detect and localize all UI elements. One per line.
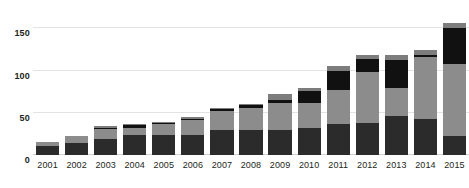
x-tick-label-2008: 2008 <box>236 160 265 170</box>
bar-segment-2009-segment-2-gray <box>268 103 291 130</box>
bar-2009 <box>268 94 291 155</box>
bar-segment-2013-segment-3-black <box>385 60 408 89</box>
bar-segment-2002-segment-2-gray <box>65 136 88 143</box>
bar-segment-2010-segment-1-dark <box>298 128 321 155</box>
bar-segment-2003-segment-2-gray <box>94 129 117 139</box>
bar-segment-2009-segment-1-dark <box>268 130 291 155</box>
bar-segment-2002-segment-1-dark <box>65 143 88 155</box>
bar-segment-2004-segment-1-dark <box>123 135 146 155</box>
bar-segment-2011-segment-3-black <box>327 71 350 90</box>
bar-segment-2004-segment-2-gray <box>123 128 146 135</box>
x-tick-label-2013: 2013 <box>382 160 411 170</box>
bar-2012 <box>356 55 379 155</box>
x-tick-label-2003: 2003 <box>91 160 120 170</box>
x-tick-label-2004: 2004 <box>120 160 149 170</box>
x-tick-label-2012: 2012 <box>353 160 382 170</box>
bar-2010 <box>298 88 321 155</box>
bar-segment-2008-segment-2-gray <box>239 108 262 130</box>
bar-segment-2006-segment-2-gray <box>181 120 204 134</box>
bar-2011 <box>327 66 350 155</box>
bar-segment-2006-segment-1-dark <box>181 135 204 155</box>
bar-2004 <box>123 124 146 155</box>
bar-segment-2010-segment-2-gray <box>298 103 321 128</box>
bar-segment-2007-segment-1-dark <box>210 130 233 155</box>
bar-segment-2015-segment-1-dark <box>443 136 466 155</box>
x-tick-label-2014: 2014 <box>411 160 440 170</box>
bar-2003 <box>94 126 117 155</box>
bar-segment-2005-segment-2-gray <box>152 124 175 135</box>
bar-segment-2013-segment-2-gray <box>385 88 408 116</box>
bar-segment-2011-segment-2-gray <box>327 90 350 124</box>
bar-segment-2001-segment-1-dark <box>36 146 59 155</box>
plot-area <box>33 20 469 155</box>
x-tick-label-2005: 2005 <box>149 160 178 170</box>
bar-2008 <box>239 104 262 155</box>
bar-2007 <box>210 108 233 155</box>
bar-segment-2012-segment-1-dark <box>356 123 379 155</box>
bar-segment-2013-segment-1-dark <box>385 116 408 155</box>
x-tick-label-2007: 2007 <box>207 160 236 170</box>
bar-segment-2008-segment-1-dark <box>239 130 262 155</box>
y-axis-labels: 050100150 <box>0 20 30 155</box>
bar-segment-2010-segment-3-black <box>298 91 321 103</box>
bar-2015 <box>443 23 466 155</box>
bar-2005 <box>152 122 175 155</box>
bar-2001 <box>36 142 59 155</box>
bar-segment-2014-segment-1-dark <box>414 119 437 155</box>
x-tick-label-2011: 2011 <box>324 160 353 170</box>
bar-2014 <box>414 50 437 155</box>
x-tick-label-2009: 2009 <box>266 160 295 170</box>
bar-2006 <box>181 117 204 155</box>
bar-segment-2015-segment-2-gray <box>443 64 466 137</box>
stacked-bar-chart: 050100150 200120022003200420052006200720… <box>0 0 469 188</box>
x-tick-label-2010: 2010 <box>295 160 324 170</box>
x-tick-label-2015: 2015 <box>440 160 469 170</box>
bar-segment-2012-segment-3-black <box>356 59 379 73</box>
bar-2013 <box>385 55 408 155</box>
bar-group <box>33 20 469 155</box>
bar-segment-2005-segment-1-dark <box>152 135 175 155</box>
bar-segment-2012-segment-2-gray <box>356 72 379 123</box>
bar-segment-2003-segment-1-dark <box>94 139 117 155</box>
bar-segment-2007-segment-2-gray <box>210 111 233 130</box>
x-tick-label-2002: 2002 <box>62 160 91 170</box>
x-axis-labels: 2001200220032004200520062007200820092010… <box>33 160 469 180</box>
x-tick-label-2006: 2006 <box>178 160 207 170</box>
bar-segment-2011-segment-1-dark <box>327 124 350 155</box>
bar-segment-2014-segment-2-gray <box>414 57 437 119</box>
x-tick-label-2001: 2001 <box>33 160 62 170</box>
bar-segment-2015-segment-3-black <box>443 28 466 63</box>
bar-2002 <box>65 136 88 155</box>
